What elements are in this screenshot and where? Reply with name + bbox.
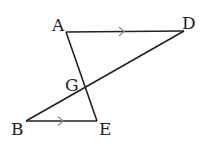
segment-ad [66,31,184,32]
segment-bd [26,31,184,121]
label-b: B [11,119,24,139]
geometry-diagram: A D G B E [0,0,204,146]
label-e: E [99,119,111,139]
label-d: D [182,13,196,33]
label-a: A [51,15,65,35]
label-g: G [65,75,79,95]
